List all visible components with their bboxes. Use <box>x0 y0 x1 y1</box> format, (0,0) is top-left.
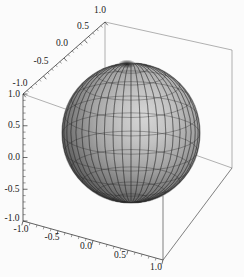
vertical-tick-label-0: 0.0 <box>8 152 20 162</box>
plot-canvas: -1.0 -0.5 0.0 0.5 1.0 1.0 0.5 0.0 -0.5 -… <box>0 0 244 277</box>
horizontal-tick-label-neg05: -0.5 <box>44 232 59 242</box>
minor-tick <box>50 229 51 231</box>
minor-tick <box>148 256 149 258</box>
minor-tick <box>80 44 82 46</box>
horizontal-tick-label-0: 0.0 <box>80 241 92 251</box>
minor-tick <box>78 237 79 239</box>
minor-tick <box>97 29 99 31</box>
major-tick <box>85 40 88 43</box>
depth-tick-label-05: 0.5 <box>77 21 89 31</box>
minor-tick <box>31 87 33 89</box>
horizontal-tick-label-1: 1.0 <box>150 262 162 272</box>
sphere-plot-figure: -1.0 -0.5 0.0 0.5 1.0 1.0 0.5 0.0 -0.5 -… <box>0 0 244 277</box>
horizontal-tick-label-neg1: -1.0 <box>13 224 28 234</box>
vertical-tick-label-1: 1.0 <box>8 89 20 99</box>
minor-tick <box>155 258 156 260</box>
frame-edge-top-rear <box>105 22 232 50</box>
minor-tick <box>71 235 72 237</box>
major-tick <box>162 260 163 264</box>
minor-tick <box>36 225 37 227</box>
minor-tick <box>48 72 50 74</box>
major-tick <box>127 250 128 254</box>
minor-tick <box>52 69 54 71</box>
minor-tick <box>101 26 103 28</box>
major-tick <box>44 76 47 79</box>
minor-tick <box>93 33 95 35</box>
major-tick <box>92 241 93 245</box>
axis-vertical-ticks <box>23 94 28 221</box>
axis-vertical-labels: 1.0 0.5 0.0 -0.5 -1.0 <box>4 89 20 223</box>
minor-tick <box>89 36 91 38</box>
minor-tick <box>106 244 107 246</box>
vertical-tick-label-neg05: -0.5 <box>4 184 19 194</box>
minor-tick <box>113 246 114 248</box>
major-tick <box>64 58 67 61</box>
vertical-tick-label-neg1: -1.0 <box>4 213 19 223</box>
minor-tick <box>43 227 44 229</box>
vertical-tick-label-05: 0.5 <box>8 120 20 130</box>
minor-tick <box>39 80 41 82</box>
minor-tick <box>35 83 37 85</box>
minor-tick <box>64 233 65 235</box>
minor-tick <box>99 242 100 244</box>
depth-tick-label-neg1: -1.0 <box>12 78 27 88</box>
sphere-surface <box>62 60 201 205</box>
minor-tick <box>134 252 135 254</box>
minor-tick <box>27 90 29 92</box>
minor-tick <box>56 65 58 67</box>
minor-tick <box>72 51 74 53</box>
minor-tick <box>29 223 30 225</box>
minor-tick <box>141 254 142 256</box>
depth-tick-label-0: 0.0 <box>56 38 68 48</box>
depth-tick-label-1: 1.0 <box>94 5 106 15</box>
minor-tick <box>76 47 78 49</box>
axis-horizontal-labels: -1.0 -0.5 0.0 0.5 1.0 <box>13 224 162 272</box>
minor-tick <box>68 54 70 56</box>
horizontal-tick-label-05: 0.5 <box>114 250 126 260</box>
depth-tick-label-neg05: -0.5 <box>33 56 48 66</box>
axis-horizontal-ticks <box>22 221 163 264</box>
minor-tick <box>60 62 62 64</box>
